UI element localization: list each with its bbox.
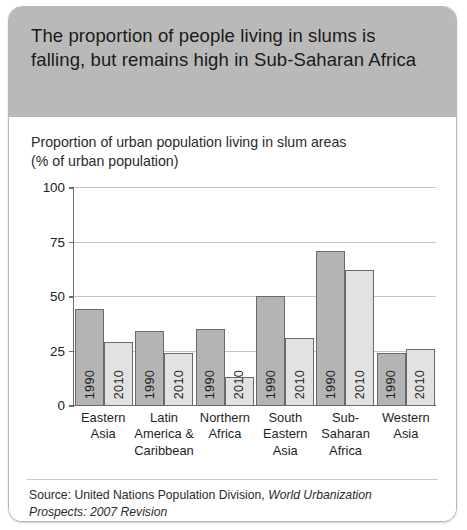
y-tick-mark-0 xyxy=(69,405,74,407)
bar-year-label: 2010 xyxy=(353,370,367,399)
x-axis-category-line: Eastern xyxy=(256,426,314,442)
bar-group: 19902010 xyxy=(74,187,134,405)
x-axis-category-line: Asia xyxy=(256,443,314,459)
bar-group: 19902010 xyxy=(315,187,375,405)
bar[interactable]: 1990 xyxy=(75,309,104,405)
x-axis-category-line: South xyxy=(256,410,314,426)
y-tick-label-25: 25 xyxy=(50,343,65,358)
chart-plot-wrapper: 0255075100 19902010199020101990201019902… xyxy=(29,179,438,479)
x-axis-category-line: Saharan xyxy=(316,426,374,442)
bar-year-label: 1990 xyxy=(203,370,217,399)
x-axis-category-line: Africa xyxy=(316,443,374,459)
bar-group: 19902010 xyxy=(376,187,436,405)
bar[interactable]: 2010 xyxy=(225,377,254,405)
x-axis-category-line: America & xyxy=(134,426,193,442)
bar-group: 19902010 xyxy=(134,187,194,405)
x-axis-category-label: SouthEasternAsia xyxy=(255,410,315,458)
page-title: The proportion of people living in slums… xyxy=(31,24,434,71)
x-axis-category-line: Northern xyxy=(196,410,254,426)
bar[interactable]: 2010 xyxy=(104,342,133,405)
figure-body: Proportion of urban population living in… xyxy=(9,117,456,522)
y-tick-label-75: 75 xyxy=(50,234,65,249)
chart-subtitle: Proportion of urban population living in… xyxy=(31,133,438,171)
x-axis-category-line: Eastern xyxy=(74,410,132,426)
bar[interactable]: 2010 xyxy=(285,338,314,406)
x-axis-category-line: Africa xyxy=(196,426,254,442)
chart-x-axis-labels: EasternAsiaLatinAmerica &CaribbeanNorthe… xyxy=(73,410,436,458)
chart-subtitle-line2: (% of urban population) xyxy=(31,152,438,171)
chart-subtitle-line1: Proportion of urban population living in… xyxy=(31,133,438,152)
bar[interactable]: 2010 xyxy=(406,349,435,406)
source-prefix: Source: United Nations Population Divisi… xyxy=(29,488,268,502)
bar-year-label: 1990 xyxy=(384,370,398,399)
y-tick-label-0: 0 xyxy=(58,398,65,413)
x-axis-category-line: Sub- xyxy=(316,410,374,426)
bar-year-label: 2010 xyxy=(172,370,186,399)
figure-card: The proportion of people living in slums… xyxy=(8,6,457,522)
bar[interactable]: 1990 xyxy=(316,251,345,406)
source-divider xyxy=(27,479,438,480)
x-axis-category-line: Asia xyxy=(74,426,132,442)
x-axis-category-label: Sub-SaharanAfrica xyxy=(315,410,375,458)
x-axis-category-line: Latin xyxy=(134,410,193,426)
y-tick-label-50: 50 xyxy=(50,289,65,304)
figure-header: The proportion of people living in slums… xyxy=(9,7,456,117)
x-axis-category-line: Caribbean xyxy=(134,443,193,459)
gridline-0 xyxy=(74,405,436,406)
bar-year-label: 2010 xyxy=(413,370,427,399)
y-tick-label-100: 100 xyxy=(43,180,65,195)
bar[interactable]: 1990 xyxy=(196,329,225,405)
source-note: Source: United Nations Population Divisi… xyxy=(27,487,438,522)
bar[interactable]: 1990 xyxy=(377,353,406,405)
bar-year-label: 2010 xyxy=(232,370,246,399)
bar[interactable]: 1990 xyxy=(256,296,285,405)
bar[interactable]: 2010 xyxy=(164,353,193,405)
x-axis-category-line: Asia xyxy=(377,426,435,442)
x-axis-category-label: NorthernAfrica xyxy=(195,410,255,458)
x-axis-category-label: LatinAmerica &Caribbean xyxy=(133,410,194,458)
chart-plot-area: 0255075100 19902010199020101990201019902… xyxy=(73,187,436,406)
source-italic-part2: Prospects: 2007 Revision xyxy=(29,505,167,519)
bar-group: 19902010 xyxy=(255,187,315,405)
bar-year-label: 1990 xyxy=(143,370,157,399)
bar-year-label: 2010 xyxy=(112,370,126,399)
x-axis-category-label: WesternAsia xyxy=(376,410,436,458)
source-italic-part1: World Urbanization xyxy=(268,488,372,502)
bar-group: 19902010 xyxy=(195,187,255,405)
bar-year-label: 1990 xyxy=(264,370,278,399)
x-axis-category-label: EasternAsia xyxy=(73,410,133,458)
bar-year-label: 1990 xyxy=(83,370,97,399)
bar-year-label: 1990 xyxy=(324,370,338,399)
bar[interactable]: 2010 xyxy=(345,270,374,405)
bar[interactable]: 1990 xyxy=(135,331,164,405)
chart-bars: 1990201019902010199020101990201019902010… xyxy=(74,187,436,405)
bar-year-label: 2010 xyxy=(293,370,307,399)
x-axis-category-line: Western xyxy=(377,410,435,426)
